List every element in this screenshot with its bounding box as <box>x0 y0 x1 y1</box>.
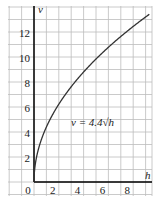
y-tick-label: 8 <box>25 77 31 89</box>
x-axis-label: h <box>145 169 151 181</box>
x-tick-label: 0 <box>25 184 31 196</box>
y-tick-label: 4 <box>25 127 31 139</box>
x-tick-label: 4 <box>75 184 81 196</box>
y-tick-label: 6 <box>25 102 31 114</box>
y-tick-label: 10 <box>19 52 31 64</box>
x-tick-label: 6 <box>100 184 106 196</box>
chart: 0246824681012 h v v = 4.4√h <box>0 0 155 204</box>
y-tick-label: 2 <box>25 152 31 164</box>
x-tick-label: 2 <box>50 184 56 196</box>
y-tick-label: 12 <box>19 27 30 39</box>
equation-label: v = 4.4√h <box>71 116 115 128</box>
tick-labels: 0246824681012 <box>19 27 130 197</box>
x-tick-label: 8 <box>124 184 130 196</box>
y-axis-label: v <box>38 3 43 15</box>
